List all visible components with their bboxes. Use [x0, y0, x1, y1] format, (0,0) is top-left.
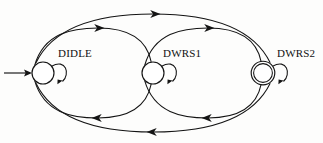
state-dwrs2-label: DWRS2: [277, 47, 315, 59]
transition-didle-to-dwrs1-upper: [35, 24, 152, 66]
edge-dwrs1-didle-lower-path: [35, 80, 152, 118]
state-didle[interactable]: DIDLE: [32, 47, 92, 84]
state-dwrs2[interactable]: DWRS2: [251, 47, 315, 85]
state-dwrs1[interactable]: DWRS1: [142, 47, 201, 84]
transition-dwrs2-to-dwrs1-lower: [145, 80, 262, 122]
initial-state-arrow: [4, 70, 32, 77]
state-dwrs2-outer-circle[interactable]: [251, 61, 275, 85]
self-loop-dwrs2-arrowhead: [278, 78, 287, 84]
transition-dwrs1-to-didle-lower: [35, 80, 152, 122]
self-loop-dwrs1-arrowhead: [167, 78, 176, 84]
state-machine-diagram: DIDLE DWRS1 DWRS2: [0, 0, 323, 143]
transition-dwrs2-to-didle-lower: [36, 83, 270, 136]
edge-dwrs2-didle-lower-path: [36, 83, 270, 132]
state-didle-circle[interactable]: [32, 62, 54, 84]
fsm-canvas: DIDLE DWRS1 DWRS2: [0, 0, 323, 143]
state-didle-label: DIDLE: [58, 47, 92, 59]
transition-dwrs1-to-dwrs2-upper: [145, 24, 262, 66]
state-dwrs1-label: DWRS1: [163, 47, 201, 59]
edge-didle-dwrs1-upper-path: [35, 28, 152, 66]
state-dwrs1-circle[interactable]: [142, 62, 164, 84]
